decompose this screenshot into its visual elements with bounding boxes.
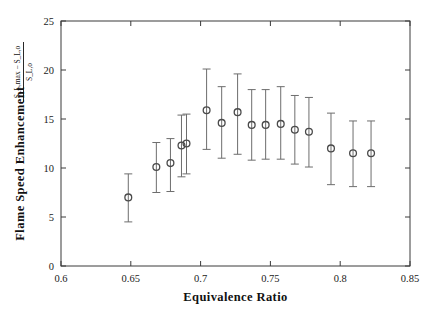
data-point-group xyxy=(124,174,132,222)
y-axis-title: Flame Speed Enhancement xyxy=(13,86,27,241)
y-tick-label: 20 xyxy=(44,65,55,76)
data-point-group xyxy=(203,69,211,149)
data-point-group xyxy=(262,90,270,160)
x-tick-label: 0.8 xyxy=(334,273,347,284)
y-axis-formula: S_L,max − S_L,oS_L,o xyxy=(13,42,34,102)
data-point-group xyxy=(248,90,256,161)
data-point-group xyxy=(349,121,357,187)
chart-svg: 0.60.650.70.750.80.850510152025Equivalen… xyxy=(0,0,430,320)
data-point-group xyxy=(183,114,191,174)
y-tick-label: 25 xyxy=(44,16,55,27)
y-tick-label: 5 xyxy=(49,212,54,223)
flame-speed-enhancement-chart: 0.60.650.70.750.80.850510152025Equivalen… xyxy=(0,0,430,320)
x-tick-label: 0.6 xyxy=(54,273,67,284)
data-point-group xyxy=(218,87,226,159)
data-point-group xyxy=(277,87,285,160)
y-tick-label: 15 xyxy=(44,114,55,125)
data-point-group xyxy=(152,143,160,193)
x-tick-label: 0.85 xyxy=(401,273,419,284)
x-tick-label: 0.75 xyxy=(261,273,279,284)
data-point-group xyxy=(166,139,174,192)
data-point-group xyxy=(327,113,335,185)
y-tick-label: 0 xyxy=(49,261,54,272)
x-tick-label: 0.7 xyxy=(194,273,207,284)
data-point-group xyxy=(367,121,375,187)
x-axis-title: Equivalence Ratio xyxy=(183,290,287,304)
data-point-group xyxy=(234,74,242,154)
data-point-group xyxy=(291,95,299,164)
formula-numerator: S_L,max − S_L,o xyxy=(13,45,22,98)
y-tick-label: 10 xyxy=(44,163,55,174)
x-tick-label: 0.65 xyxy=(122,273,140,284)
data-point-group xyxy=(305,97,313,167)
formula-denominator: S_L,o xyxy=(25,63,34,81)
plot-frame xyxy=(61,21,410,266)
